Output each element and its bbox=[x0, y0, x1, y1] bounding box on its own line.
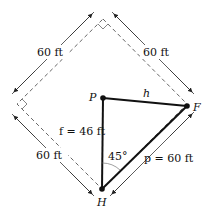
dim-label-top-left: 60 ft bbox=[37, 46, 64, 59]
point-f bbox=[184, 103, 190, 109]
dim-label-bottom-left: 60 ft bbox=[36, 149, 63, 162]
label-f: F bbox=[192, 101, 201, 114]
right-angle-top bbox=[98, 24, 108, 29]
label-p: P bbox=[88, 91, 97, 104]
dim-label-top-right: 60 ft bbox=[143, 46, 170, 59]
diamond-diagram: 60 ft 60 ft 60 ft P F H h f = 46 ft p = … bbox=[0, 0, 212, 217]
angle-arc bbox=[103, 163, 121, 170]
segment-f bbox=[102, 98, 103, 189]
label-angle: 45° bbox=[108, 150, 128, 163]
label-p-segment: p = 60 ft bbox=[144, 152, 194, 165]
label-h-segment: h bbox=[143, 87, 150, 100]
point-h bbox=[99, 186, 105, 192]
segment-p bbox=[102, 106, 187, 189]
right-angle-left bbox=[22, 99, 27, 109]
point-p bbox=[100, 95, 106, 101]
label-h: H bbox=[96, 196, 107, 209]
label-f-segment: f = 46 ft bbox=[59, 125, 106, 138]
